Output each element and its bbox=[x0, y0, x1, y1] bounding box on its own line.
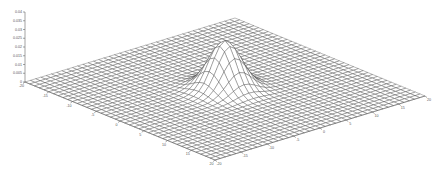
gaussian-surface-mesh bbox=[25, 18, 425, 160]
x-tick-label: 5 bbox=[139, 133, 141, 137]
tick-mark bbox=[118, 121, 120, 123]
y-tick-label: 20 bbox=[427, 98, 431, 102]
x-tick-label: 10 bbox=[162, 143, 166, 147]
x-tick-label: 0 bbox=[116, 123, 118, 127]
x-tick-label: -5 bbox=[91, 113, 94, 117]
x-tick-label: 20 bbox=[210, 162, 214, 166]
y-tick-label: 5 bbox=[349, 122, 351, 126]
y-tick-label: 0 bbox=[323, 130, 325, 134]
tick-mark bbox=[320, 128, 322, 130]
x-tick-label: 15 bbox=[186, 152, 190, 156]
z-tick-label: 0.04 bbox=[15, 10, 22, 14]
y-tick-label: -10 bbox=[269, 146, 274, 150]
z-tick-label: 0.025 bbox=[13, 36, 22, 40]
x-tick-label: -20 bbox=[19, 84, 24, 88]
z-tick-label: 0.01 bbox=[15, 63, 22, 67]
z-tick-label: 0.005 bbox=[13, 71, 22, 75]
z-tick-label: 0.02 bbox=[15, 45, 22, 49]
y-tick-label: -20 bbox=[216, 162, 221, 166]
x-tick-label: -10 bbox=[66, 104, 71, 108]
x-tick-label: -15 bbox=[43, 94, 48, 98]
z-axis-ticks: 00.0050.010.0150.020.0250.030.0350.04 bbox=[13, 10, 25, 84]
surface-plot: 00.0050.010.0150.020.0250.030.0350.04 -2… bbox=[0, 0, 442, 179]
y-tick-label: 15 bbox=[401, 106, 405, 110]
z-tick-label: 0.035 bbox=[13, 19, 22, 23]
y-tick-label: -15 bbox=[243, 154, 248, 158]
y-tick-label: -5 bbox=[296, 138, 299, 142]
z-tick-label: 0.015 bbox=[13, 54, 22, 58]
tick-mark bbox=[346, 120, 348, 122]
y-tick-label: 10 bbox=[375, 114, 379, 118]
tick-mark bbox=[142, 131, 144, 133]
z-tick-label: 0.03 bbox=[15, 28, 22, 32]
tick-mark bbox=[94, 111, 96, 113]
